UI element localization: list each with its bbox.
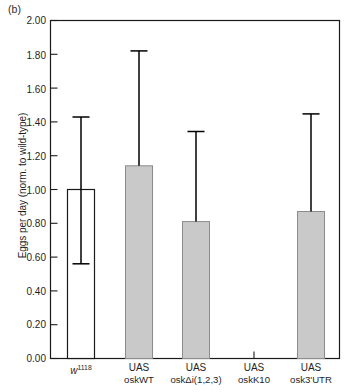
bar-uas-osk3utr[interactable] [298,212,325,359]
plot-area [0,0,349,392]
x-axis-category-labels: w1118 UAS oskWT UAS oskΔi(1,2,3) UAS osk… [0,360,349,392]
x-category-line1: UAS [271,362,349,374]
figure-panel-b: (b) Eggs per day (norm. to wild-type) 0.… [0,0,349,392]
error-bar-uas-oskwt [131,51,148,166]
error-bar-uas-oskdi123 [188,132,205,222]
bar-group-uas-oskdi123[interactable] [183,132,210,359]
bar-group-w1118[interactable] [68,117,95,359]
bar-group-uas-oskwt[interactable] [126,51,153,359]
y-axis-ticks [51,21,58,359]
x-category-line1: w [70,365,77,376]
x-category-superscript: 1118 [78,364,92,371]
error-bar-uas-osk3utr [303,114,320,212]
bar-group-uas-osk3utr[interactable] [298,114,325,359]
bar-uas-oskdi123[interactable] [183,222,210,359]
bar-uas-oskwt[interactable] [126,166,153,359]
x-category-uas-osk3utr: UAS osk3'UTR [271,362,349,385]
x-category-line2: osk3'UTR [271,374,349,386]
